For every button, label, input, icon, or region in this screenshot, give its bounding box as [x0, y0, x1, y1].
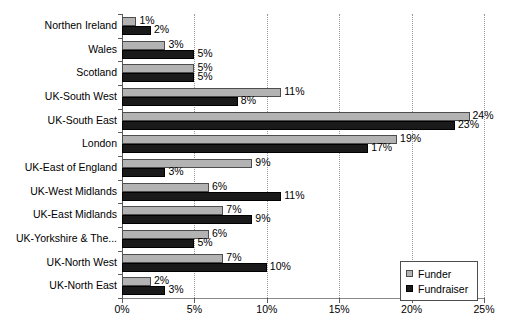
category-label: UK-East of England: [25, 161, 117, 173]
category-tick-mark: [118, 180, 122, 181]
bar-fundraiser: [122, 73, 194, 82]
bar-funder: [122, 88, 281, 97]
legend: Funder Fundraiser: [400, 261, 478, 301]
x-tick-mark: [484, 298, 485, 303]
category-tick-mark: [118, 227, 122, 228]
x-tick-mark: [122, 298, 123, 303]
bar-value-label: 11%: [284, 87, 304, 96]
legend-swatch-funder-icon: [406, 270, 413, 277]
legend-item-fundraiser: Fundraiser: [406, 281, 472, 296]
x-tick-label: 0%: [114, 303, 129, 315]
legend-item-funder: Funder: [406, 266, 472, 281]
bar-value-label: 9%: [255, 214, 270, 223]
category-tick-mark: [118, 132, 122, 133]
bar-fundraiser: [122, 97, 238, 106]
bar-value-label: 9%: [255, 158, 270, 167]
gridline: [412, 14, 413, 298]
bar-funder: [122, 17, 136, 26]
bar-funder: [122, 159, 252, 168]
bar-value-label: 3%: [168, 40, 183, 49]
bar-fundraiser: [122, 144, 368, 153]
bar-value-label: 1%: [139, 16, 154, 25]
bar-fundraiser: [122, 50, 194, 59]
bar-value-label: 5%: [197, 72, 212, 81]
category-label: Northen Ireland: [45, 19, 117, 31]
gridline: [484, 14, 485, 298]
category-label: Scotland: [76, 66, 117, 78]
bar-value-label: 6%: [212, 182, 227, 191]
category-label: UK-Yorkshire & The...: [16, 232, 117, 244]
bar-value-label: 6%: [212, 229, 227, 238]
bar-funder: [122, 135, 397, 144]
bar-value-label: 11%: [284, 191, 304, 200]
x-tick-label: 5%: [187, 303, 202, 315]
category-label: UK-South West: [45, 90, 117, 102]
x-tick-label: 15%: [329, 303, 350, 315]
category-tick-mark: [118, 61, 122, 62]
category-label: UK-South East: [48, 114, 117, 126]
x-tick-label: 25%: [473, 303, 494, 315]
bar-fundraiser: [122, 121, 455, 130]
bar-value-label: 2%: [154, 25, 169, 34]
category-tick-mark: [118, 109, 122, 110]
bar-value-label: 8%: [241, 96, 256, 105]
bar-value-label: 7%: [226, 205, 241, 214]
bar-funder: [122, 183, 209, 192]
bar-funder: [122, 112, 470, 121]
bar-value-label: 10%: [270, 262, 291, 271]
legend-swatch-fundraiser-icon: [406, 285, 413, 292]
legend-label-fundraiser: Fundraiser: [418, 283, 468, 295]
bar-chart: 1%2%3%5%5%5%11%8%24%23%19%17%9%3%6%11%7%…: [0, 0, 509, 335]
category-label: UK-West Midlands: [30, 185, 117, 197]
category-tick-mark: [118, 14, 122, 15]
category-tick-mark: [118, 38, 122, 39]
bar-value-label: 19%: [400, 134, 421, 143]
category-tick-mark: [118, 251, 122, 252]
bar-fundraiser: [122, 168, 165, 177]
bar-value-label: 3%: [168, 285, 183, 294]
bar-fundraiser: [122, 26, 151, 35]
bar-funder: [122, 206, 223, 215]
bar-value-label: 5%: [197, 49, 212, 58]
category-tick-mark: [118, 85, 122, 86]
category-tick-mark: [118, 203, 122, 204]
bar-fundraiser: [122, 215, 252, 224]
bar-value-label: 2%: [154, 276, 169, 285]
bar-funder: [122, 41, 165, 50]
x-tick-label: 20%: [401, 303, 422, 315]
bar-value-label: 3%: [168, 167, 183, 176]
bar-fundraiser: [122, 192, 281, 201]
bar-funder: [122, 277, 151, 286]
bar-funder: [122, 64, 194, 73]
x-tick-label: 10%: [256, 303, 277, 315]
x-tick-mark: [267, 298, 268, 303]
bar-value-label: 17%: [371, 143, 392, 152]
category-label: London: [82, 137, 117, 149]
bar-fundraiser: [122, 286, 165, 295]
category-label: UK-North West: [47, 256, 117, 268]
legend-label-funder: Funder: [418, 268, 451, 280]
bar-fundraiser: [122, 239, 194, 248]
bar-fundraiser: [122, 263, 267, 272]
bar-value-label: 5%: [197, 238, 212, 247]
plot-area: 1%2%3%5%5%5%11%8%24%23%19%17%9%3%6%11%7%…: [122, 14, 484, 298]
bar-value-label: 7%: [226, 253, 241, 262]
x-tick-mark: [194, 298, 195, 303]
x-tick-mark: [339, 298, 340, 303]
category-tick-mark: [118, 156, 122, 157]
bar-value-label: 23%: [458, 120, 479, 129]
bar-funder: [122, 254, 223, 263]
gridline: [339, 14, 340, 298]
category-tick-mark: [118, 274, 122, 275]
category-label: UK-East Midlands: [33, 208, 117, 220]
category-label: Wales: [88, 43, 117, 55]
bar-funder: [122, 230, 209, 239]
category-label: UK-North East: [49, 279, 117, 291]
